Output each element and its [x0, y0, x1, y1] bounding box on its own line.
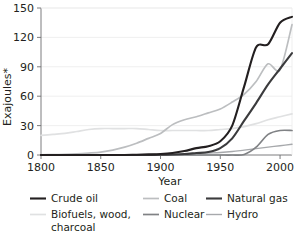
- legend-label: Crude oil: [51, 192, 98, 204]
- legend-label: Hydro: [227, 208, 258, 220]
- energy-sources-chart-figure: 0306090120150 18001850190019502000 Exajo…: [0, 0, 300, 241]
- legend-item-hydro[interactable]: Hydro: [206, 208, 258, 220]
- y-tick-label-60: 60: [20, 90, 34, 103]
- legend-label-line2: charcoal: [51, 221, 96, 233]
- gridlines-group: [41, 8, 292, 126]
- x-axis-tick-labels: 18001850190019502000: [27, 161, 294, 174]
- x-axis-title: Year: [157, 175, 182, 188]
- x-tick-label-1950: 1950: [206, 161, 234, 174]
- y-tick-label-30: 30: [20, 120, 34, 133]
- y-axis-tick-labels: 0306090120150: [13, 2, 34, 162]
- y-tick-label-90: 90: [20, 61, 34, 74]
- legend-item-crude-oil[interactable]: Crude oil: [30, 192, 98, 204]
- x-tick-label-1800: 1800: [27, 161, 55, 174]
- y-axis-title: Exajoules*: [1, 67, 14, 126]
- legend-item-natural-gas[interactable]: Natural gas: [206, 192, 288, 204]
- series-line-nuclear: [41, 130, 292, 155]
- chart-canvas: 0306090120150 18001850190019502000 Exajo…: [0, 0, 300, 241]
- series-line-biofuels-wood-charcoal: [41, 114, 292, 136]
- series-line-natural-gas: [41, 53, 292, 155]
- tick-marks-group: [37, 8, 280, 159]
- legend-item-coal[interactable]: Coal: [143, 192, 187, 204]
- legend: Crude oilCoalNatural gasBiofuels, wood,c…: [30, 192, 288, 233]
- legend-label: Coal: [164, 192, 187, 204]
- x-tick-label-1900: 1900: [147, 161, 175, 174]
- legend-label: Natural gas: [227, 192, 288, 204]
- plot-frame: [41, 8, 292, 155]
- legend-label: Biofuels, wood,: [51, 208, 131, 220]
- x-tick-label-2000: 2000: [266, 161, 294, 174]
- legend-label: Nuclear: [164, 208, 205, 220]
- legend-item-nuclear[interactable]: Nuclear: [143, 208, 205, 220]
- series-line-coal: [41, 25, 292, 155]
- y-tick-label-150: 150: [13, 2, 34, 15]
- y-tick-label-120: 120: [13, 31, 34, 44]
- x-tick-label-1850: 1850: [87, 161, 115, 174]
- legend-item-biofuels-wood-charcoal[interactable]: Biofuels, wood,charcoal: [30, 208, 131, 233]
